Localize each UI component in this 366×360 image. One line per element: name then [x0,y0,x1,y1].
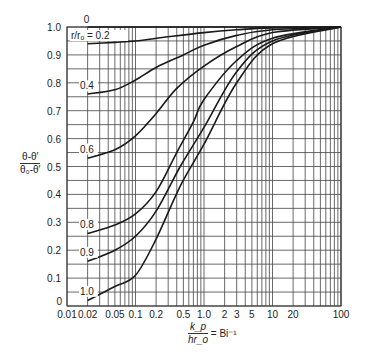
x-axis-label-suffix: = Bi⁻¹ [211,328,237,339]
curve-r-1-0 [88,27,341,300]
x-axis-label-numerator: k_p [188,321,208,334]
tick-labels: 0.010.020.050.10.20.51.0235102010000.10.… [47,22,350,320]
x-tick-label: 3 [234,309,240,320]
curve-label: r/rₒ = 0.2 [71,30,110,41]
x-tick-label: 0.05 [105,309,125,320]
x-tick-label: 100 [333,309,350,320]
y-tick-label: 0.3 [47,217,61,228]
y-tick-label: 0.1 [47,273,61,284]
y-tick-label: 0.6 [47,134,61,145]
curve-label: 0 [84,14,90,25]
x-tick-label: 0.2 [149,309,163,320]
y-tick-label: 0 [56,296,62,307]
y-tick-label: 0.4 [47,189,61,200]
x-tick-label: 20 [288,309,300,320]
curve-r-0-8 [88,27,341,233]
x-tick-label: 10 [267,309,279,320]
curve-label: 0.4 [80,80,94,91]
y-axis-label-denominator: θ₀-θ′ [20,164,40,176]
curve-label: 0.9 [80,247,94,258]
x-tick-label: 1.0 [197,309,211,320]
x-tick-label: 2 [222,309,228,320]
y-tick-label: 0.5 [47,162,61,173]
curve-label: 1.0 [80,286,94,297]
y-axis-label: θ-θ′ θ₀-θ′ [20,151,40,176]
y-tick-label: 1.0 [47,22,61,33]
x-tick-label: 0.01 [57,309,77,320]
x-axis-label-denominator: hr_o [188,334,208,346]
x-tick-label: 5 [249,309,255,320]
y-tick-label: 0.2 [47,245,61,256]
y-tick-label: 0.7 [47,106,61,117]
x-axis-label: k_p hr_o = Bi⁻¹ [188,321,237,346]
x-tick-label: 0.02 [78,309,98,320]
y-tick-label: 0.9 [47,50,61,61]
x-tick-label: 0.1 [129,309,143,320]
curve-label: 0.6 [80,144,94,155]
grid [67,27,341,306]
curves [88,27,341,300]
y-axis-label-numerator: θ-θ′ [20,151,40,164]
chart: 0.010.020.050.10.20.51.0235102010000.10.… [0,0,366,360]
curve-label: 0.8 [80,219,94,230]
y-tick-label: 0.8 [47,78,61,89]
x-tick-label: 0.5 [176,309,190,320]
